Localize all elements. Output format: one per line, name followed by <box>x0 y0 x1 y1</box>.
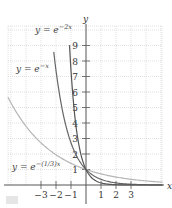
x-tick-label: 3 <box>128 190 134 200</box>
x-tick-label: −3 <box>34 190 48 200</box>
y-axis-label: y <box>82 14 89 24</box>
axis-ticks: −3−2−1123123456789 <box>34 41 134 200</box>
x-tick-label: −2 <box>49 190 62 200</box>
caption-fragment <box>6 196 18 204</box>
x-axis-label: x <box>167 181 172 191</box>
label-e-neg-2x: y = e−2x <box>34 23 72 35</box>
x-tick-label: −1 <box>64 190 77 200</box>
label-e-neg-x: y = e−x <box>15 62 49 74</box>
exponential-decay-chart: −3−2−1123123456789 x y y = e−2x y = e−x … <box>0 0 172 208</box>
y-tick-label: 8 <box>72 57 78 67</box>
x-tick-label: 2 <box>113 190 119 200</box>
label-e-neg-third-x: y = e−(1/3)x <box>11 160 61 172</box>
y-tick-label: 7 <box>72 72 78 82</box>
x-tick-label: 1 <box>98 190 104 200</box>
axes <box>4 24 164 204</box>
y-tick-label: 9 <box>72 41 78 51</box>
